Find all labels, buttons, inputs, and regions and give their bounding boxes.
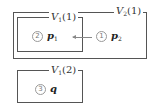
variable-p2: p2 <box>111 30 122 41</box>
circled-number-icon: 2 <box>32 31 43 42</box>
label-arg: (1) <box>127 5 141 16</box>
item-p1: 2p1 <box>32 31 58 44</box>
item-p2: 1p2 <box>96 31 122 44</box>
arrow-left-icon <box>73 37 92 38</box>
label-arg: (2) <box>62 64 76 75</box>
lower-box-label: V1(2) <box>49 65 78 78</box>
label-arg: (1) <box>62 11 76 22</box>
variable-q: q <box>50 83 57 94</box>
item-q: 3q <box>35 84 57 95</box>
inner-box-label: V1(1) <box>49 12 78 25</box>
circled-number-icon: 1 <box>96 31 107 42</box>
outer-box-label: V2(1) <box>114 6 143 19</box>
circled-number-icon: 3 <box>35 84 46 95</box>
variable-p1: p1 <box>47 30 58 41</box>
